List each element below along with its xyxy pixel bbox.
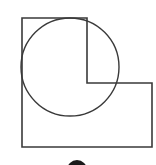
overlapping-circle [21,18,119,116]
bottom-dot-shape [67,160,87,165]
geometry-diagram [0,0,156,165]
l-shaped-polygon [22,18,152,147]
